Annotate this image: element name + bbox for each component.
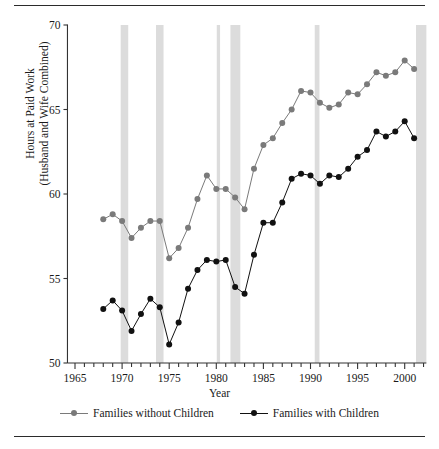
series-with-children — [100, 118, 417, 347]
data-point — [392, 128, 398, 134]
y-tick-label: 55 — [49, 273, 61, 285]
data-point — [317, 100, 323, 106]
data-point — [279, 120, 285, 126]
series-line — [103, 121, 414, 344]
data-point — [402, 118, 408, 124]
data-point — [100, 306, 106, 312]
data-point — [232, 284, 238, 290]
chart-legend: Families without Children Families with … — [0, 407, 439, 419]
series-without-children — [100, 57, 417, 261]
legend-item-with-children: Families with Children — [240, 407, 379, 419]
data-point — [166, 255, 172, 261]
y-tick-label: 65 — [49, 104, 61, 116]
data-point — [204, 257, 210, 263]
data-point — [402, 57, 408, 63]
data-point — [251, 252, 257, 258]
data-point — [270, 220, 276, 226]
data-point — [138, 225, 144, 231]
recession-band — [156, 25, 164, 363]
x-tick-label: 1985 — [252, 372, 275, 384]
data-point — [270, 135, 276, 141]
data-point — [176, 319, 182, 325]
data-point — [119, 308, 125, 314]
data-point — [213, 259, 219, 265]
data-point — [251, 166, 257, 172]
data-point — [326, 172, 332, 178]
data-point — [138, 311, 144, 317]
data-point — [383, 134, 389, 140]
data-point — [298, 88, 304, 94]
legend-marker-with-children — [240, 408, 268, 418]
data-point — [355, 91, 361, 97]
data-point — [289, 176, 295, 182]
data-point — [129, 328, 135, 334]
x-axis-title: Year — [0, 387, 439, 399]
data-point — [364, 81, 370, 87]
data-point — [345, 90, 351, 96]
x-tick-label: 1975 — [158, 372, 181, 384]
data-point — [260, 142, 266, 148]
chart-plot: 5055606570196519701975198019851990199520… — [0, 0, 439, 449]
data-point — [166, 341, 172, 347]
data-point — [100, 216, 106, 222]
data-point — [411, 135, 417, 141]
data-point — [204, 172, 210, 178]
data-point — [411, 66, 417, 72]
data-point — [223, 257, 229, 263]
data-point — [355, 154, 361, 160]
data-point — [147, 296, 153, 302]
data-point — [110, 297, 116, 303]
recession-bands — [121, 25, 427, 363]
data-point — [289, 107, 295, 113]
data-point — [223, 186, 229, 192]
legend-label-with-children: Families with Children — [273, 407, 379, 419]
y-tick-label: 70 — [49, 19, 61, 31]
y-tick-label: 50 — [49, 357, 61, 369]
data-point — [336, 101, 342, 107]
data-point — [392, 69, 398, 75]
data-point — [157, 218, 163, 224]
x-tick-label: 2000 — [393, 372, 416, 384]
data-point — [345, 166, 351, 172]
data-point — [383, 73, 389, 79]
data-point — [308, 172, 314, 178]
data-point — [279, 199, 285, 205]
data-point — [185, 225, 191, 231]
data-point — [326, 105, 332, 111]
data-point — [129, 235, 135, 241]
data-point — [194, 267, 200, 273]
y-axis-title: Hours at Paid Work (Husband and Wife Com… — [24, 0, 51, 229]
data-point — [147, 218, 153, 224]
x-tick-label: 1990 — [299, 372, 322, 384]
x-tick-label: 1980 — [205, 372, 228, 384]
data-point — [298, 171, 304, 177]
data-point — [176, 245, 182, 251]
x-tick-label: 1995 — [346, 372, 369, 384]
data-point — [157, 304, 163, 310]
legend-marker-without-children — [60, 408, 88, 418]
legend-item-without-children: Families without Children — [60, 407, 214, 419]
data-point — [232, 194, 238, 200]
x-tick-label: 1965 — [64, 372, 87, 384]
data-point — [373, 128, 379, 134]
data-point — [110, 211, 116, 217]
data-point — [373, 69, 379, 75]
x-tick-label: 1970 — [111, 372, 134, 384]
data-point — [336, 174, 342, 180]
recession-band — [217, 25, 220, 363]
figure: 5055606570196519701975198019851990199520… — [0, 0, 439, 449]
recession-band — [416, 25, 426, 363]
data-point — [185, 286, 191, 292]
legend-label-without-children: Families without Children — [93, 407, 214, 419]
recession-band — [315, 25, 320, 363]
data-point — [242, 291, 248, 297]
data-point — [260, 220, 266, 226]
data-point — [242, 206, 248, 212]
data-point — [194, 196, 200, 202]
y-tick-label: 60 — [49, 188, 61, 200]
data-point — [364, 147, 370, 153]
series-line — [103, 60, 414, 258]
data-point — [119, 218, 125, 224]
data-point — [308, 90, 314, 96]
data-point — [213, 186, 219, 192]
